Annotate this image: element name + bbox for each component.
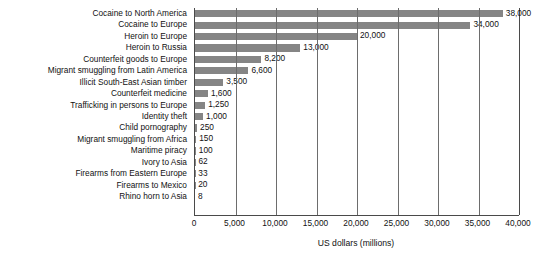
bar [195,56,261,63]
bar [195,44,300,51]
horizontal-bar-chart: Cocaine to North AmericaCocaine to Europ… [0,0,538,272]
x-tick-label: 5,000 [224,218,245,228]
bar-value-label: 20 [198,179,207,190]
bar [195,159,196,166]
bar [195,124,197,131]
bar-value-label: 33 [198,168,207,179]
category-label: Counterfeit medicine [0,88,190,99]
x-tick-label: 30,000 [424,218,449,228]
category-label: Firearms to Mexico [0,180,190,191]
gridline [479,8,480,215]
category-label: Trafficking in persons to Europe [0,100,190,111]
category-label: Illicit South-East Asian timber [0,77,190,88]
x-axis-title: US dollars (millions) [194,238,518,248]
category-label: Migrant smuggling from Latin America [0,65,190,76]
category-label: Cocaine to Europe [0,19,190,30]
bar-value-label: 150 [199,133,213,144]
bar-value-label: 1,000 [206,111,227,122]
bar-value-label: 20,000 [360,30,385,41]
category-label: Counterfeit goods to Europe [0,54,190,65]
bar-value-label: 3,500 [226,76,247,87]
plot-right-border [519,8,520,215]
bar-value-label: 38,000 [506,8,531,19]
gridline [236,8,237,215]
bar [195,136,196,143]
bar-value-label: 1,600 [211,88,232,99]
category-label: Ivory to Asia [0,157,190,168]
category-label: Rhino horn to Asia [0,191,190,202]
x-tick-label: 25,000 [384,218,409,228]
x-tick-label: 10,000 [262,218,287,228]
category-label: Firearms from Eastern Europe [0,168,190,179]
bar [195,79,223,86]
plot-area: 38,00034,00020,00013,0008,2006,6003,5001… [194,8,519,216]
category-label: Cocaine to North America [0,8,190,19]
bar-value-label: 8,200 [264,53,285,64]
bar [195,147,196,154]
bar [195,90,208,97]
bar-value-label: 250 [200,122,214,133]
gridline [276,8,277,215]
x-tick-label: 20,000 [343,218,368,228]
category-label: Identity theft [0,111,190,122]
gridline [317,8,318,215]
x-axis-ticks: 05,00010,00015,00020,00025,00030,00035,0… [194,216,518,230]
bar-value-label: 6,600 [251,65,272,76]
gridline [438,8,439,215]
category-label: Heroin to Europe [0,31,190,42]
bar-value-label: 8 [198,191,203,202]
bar-value-label: 100 [199,145,213,156]
category-label: Maritime piracy [0,145,190,156]
bar-value-label: 1,250 [208,99,229,110]
x-tick-label: 35,000 [465,218,490,228]
category-label: Heroin to Russia [0,42,190,53]
bar [195,102,205,109]
bar [195,113,203,120]
bar-value-label: 34,000 [473,19,498,30]
x-tick-label: 15,000 [303,218,328,228]
category-label: Child pornography [0,122,190,133]
bar-value-label: 62 [199,156,208,167]
x-tick-label: 40,000 [505,218,530,228]
bar [195,10,503,17]
x-tick-label: 0 [192,218,197,228]
gridline [357,8,358,215]
category-label: Migrant smuggling from Africa [0,134,190,145]
bar [195,67,248,74]
gridline [398,8,399,215]
category-axis-labels: Cocaine to North AmericaCocaine to Europ… [0,8,190,202]
